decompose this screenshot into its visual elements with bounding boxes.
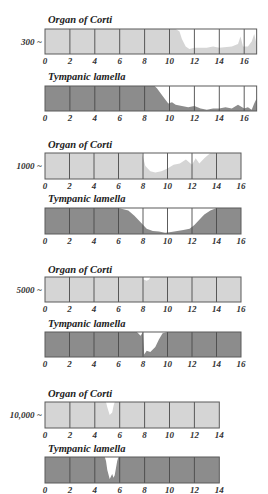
x-tick-label: 2 xyxy=(67,430,73,440)
x-tick-label: 0 xyxy=(43,359,48,369)
panel-3: Organ of Corti0246810121416Tympanic lame… xyxy=(17,264,246,369)
x-tick-label: 6 xyxy=(117,485,122,494)
organ-of-corti-plot: Organ of Corti0246810121416 xyxy=(43,264,246,314)
x-tick-label: 6 xyxy=(117,113,122,123)
x-tick-label: 0 xyxy=(43,236,48,246)
organ-of-corti-title: Organ of Corti xyxy=(48,139,112,150)
x-tick-label: 4 xyxy=(92,430,98,440)
tympanic-lamella-plot: Tympanic lamella0246810121416 xyxy=(43,193,246,246)
tympanic-lamella-plot: Tympanic lamella0246810121416 xyxy=(43,318,246,369)
x-tick-label: 6 xyxy=(116,359,121,369)
panel-1: Organ of Corti0246810121416Tympanic lame… xyxy=(20,14,257,123)
x-tick-label: 8 xyxy=(141,236,146,246)
x-tick-label: 4 xyxy=(91,359,97,369)
panel-4: Organ of Corti02468101214Tympanic lamell… xyxy=(10,388,224,494)
x-tick-label: 0 xyxy=(43,485,48,494)
organ-of-corti-plot: Organ of Corti0246810121416 xyxy=(43,139,246,191)
x-tick-label: 2 xyxy=(66,359,72,369)
x-tick-label: 12 xyxy=(190,430,200,440)
x-tick-label: 16 xyxy=(237,359,247,369)
tympanic-lamella-title: Tympanic lamella xyxy=(48,71,125,82)
cochlea-vibration-figure: Organ of Corti0246810121416Tympanic lame… xyxy=(0,0,268,494)
x-tick-label: 0 xyxy=(43,181,48,191)
x-tick-label: 10 xyxy=(165,56,175,66)
tympanic-lamella-title: Tympanic lamella xyxy=(48,443,125,454)
organ-of-corti-area xyxy=(45,402,219,428)
x-tick-label: 8 xyxy=(142,485,147,494)
x-tick-label: 6 xyxy=(116,181,121,191)
frequency-label: 5000 ~ xyxy=(17,285,42,295)
x-tick-label: 6 xyxy=(116,236,121,246)
x-tick-label: 4 xyxy=(92,485,98,494)
x-tick-label: 10 xyxy=(165,113,175,123)
x-tick-label: 2 xyxy=(67,485,73,494)
x-tick-label: 8 xyxy=(142,56,147,66)
x-tick-label: 10 xyxy=(163,181,173,191)
x-tick-label: 14 xyxy=(215,485,225,494)
x-tick-label: 12 xyxy=(188,236,198,246)
x-tick-label: 14 xyxy=(212,304,222,314)
x-tick-label: 0 xyxy=(43,113,48,123)
x-tick-label: 4 xyxy=(91,304,97,314)
x-tick-label: 12 xyxy=(190,56,200,66)
x-tick-label: 2 xyxy=(67,113,73,123)
x-tick-label: 14 xyxy=(215,56,225,66)
x-tick-label: 10 xyxy=(165,485,175,494)
x-tick-label: 0 xyxy=(43,430,48,440)
x-tick-label: 6 xyxy=(117,56,122,66)
x-tick-label: 8 xyxy=(141,359,146,369)
x-tick-label: 2 xyxy=(66,304,72,314)
organ-of-corti-title: Organ of Corti xyxy=(48,264,112,275)
x-tick-label: 6 xyxy=(116,304,121,314)
organ-of-corti-title: Organ of Corti xyxy=(48,14,112,25)
x-tick-label: 12 xyxy=(190,113,200,123)
x-tick-label: 8 xyxy=(142,430,147,440)
x-tick-label: 12 xyxy=(188,304,198,314)
x-tick-label: 6 xyxy=(117,430,122,440)
tympanic-lamella-title: Tympanic lamella xyxy=(48,318,125,329)
x-tick-label: 10 xyxy=(165,430,175,440)
x-tick-label: 16 xyxy=(237,304,247,314)
frequency-label: 1000 ~ xyxy=(17,161,42,171)
x-tick-label: 14 xyxy=(212,236,222,246)
x-tick-label: 2 xyxy=(67,56,73,66)
x-tick-label: 8 xyxy=(141,181,146,191)
x-tick-label: 8 xyxy=(142,113,147,123)
x-tick-label: 16 xyxy=(240,56,250,66)
frequency-label: 300 ~ xyxy=(20,37,42,47)
x-tick-label: 16 xyxy=(237,181,247,191)
x-tick-label: 4 xyxy=(92,113,98,123)
x-tick-label: 12 xyxy=(188,359,198,369)
frequency-label: 10,000 ~ xyxy=(10,410,42,420)
x-tick-label: 0 xyxy=(43,56,48,66)
x-tick-label: 4 xyxy=(91,181,97,191)
x-tick-label: 14 xyxy=(215,113,225,123)
x-tick-label: 14 xyxy=(212,181,222,191)
x-tick-label: 12 xyxy=(188,181,198,191)
panel-2: Organ of Corti0246810121416Tympanic lame… xyxy=(17,139,246,246)
organ-of-corti-title: Organ of Corti xyxy=(48,388,112,399)
x-tick-label: 0 xyxy=(43,304,48,314)
x-tick-label: 2 xyxy=(66,236,72,246)
organ-of-corti-plot: Organ of Corti0246810121416 xyxy=(43,14,257,66)
organ-of-corti-plot: Organ of Corti02468101214 xyxy=(43,388,225,440)
tympanic-lamella-title: Tympanic lamella xyxy=(48,193,125,204)
x-tick-label: 14 xyxy=(215,430,225,440)
x-tick-label: 14 xyxy=(212,359,222,369)
x-tick-label: 16 xyxy=(237,236,247,246)
tympanic-lamella-area xyxy=(45,457,219,483)
x-tick-label: 10 xyxy=(163,236,173,246)
x-tick-label: 2 xyxy=(66,181,72,191)
x-tick-label: 4 xyxy=(91,236,97,246)
x-tick-label: 8 xyxy=(141,304,146,314)
x-tick-label: 16 xyxy=(240,113,250,123)
tympanic-lamella-plot: Tympanic lamella0246810121416 xyxy=(43,71,257,123)
tympanic-lamella-plot: Tympanic lamella02468101214 xyxy=(43,443,225,494)
x-tick-label: 12 xyxy=(190,485,200,494)
x-tick-label: 4 xyxy=(92,56,98,66)
x-tick-label: 10 xyxy=(163,304,173,314)
x-tick-label: 10 xyxy=(163,359,173,369)
